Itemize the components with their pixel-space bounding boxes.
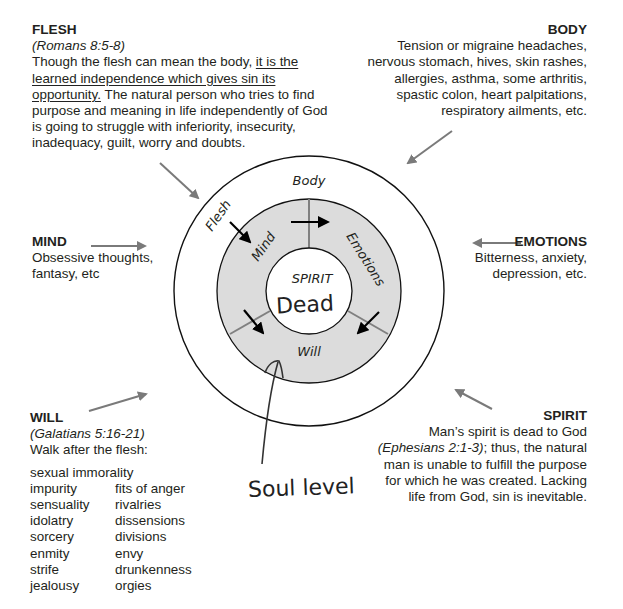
body-line: Tension or migraine headaches, [297,38,587,54]
mind-description: MIND Obsessive thoughts, fantasy, etc [32,234,182,283]
flesh-title: FLESH [32,22,332,38]
spirit-line: for which he was created. Lacking [347,473,587,489]
soul-level-handwritten: Soul level [248,473,356,502]
will-intro: Walk after the flesh: [30,442,230,458]
spirit-line-rest: ; thus, the natural [484,440,587,455]
emotions-description: EMOTIONS Bitterness, anxiety, depression… [437,234,587,283]
spirit-description: SPIRIT Man’s spirit is dead to God (Ephe… [347,408,587,505]
list-item: enmity [30,546,115,562]
list-item: sexual immorality [30,465,230,481]
spirit-line: (Ephesians 2:1-3); thus, the natural [347,440,587,456]
works-of-flesh-list: sexual immorality impurity fits of anger… [30,465,230,595]
emotions-title: EMOTIONS [437,234,587,250]
pointer-arrow-spirit [456,390,492,409]
body-line: respiratory ailments, etc. [297,103,587,119]
spirit-line: life from God, sin is inevitable. [347,489,587,505]
emotions-line: depression, etc. [437,266,587,282]
mind-title: MIND [32,234,182,250]
list-item: idolatry [30,513,115,529]
list-item: drunkenness [115,562,230,578]
spirit-title: SPIRIT [347,408,587,424]
body-line: allergies, asthma, some arthritis, [297,71,587,87]
mind-line: Obsessive thoughts, [32,250,182,266]
body-line: nervous stomach, hives, skin rashes, [297,54,587,70]
dead-handwritten: Dead [275,291,334,319]
flesh-text-before: Though the flesh can mean the body, [32,54,256,69]
pointer-arrow-flesh [160,163,198,198]
list-item: impurity [30,481,115,497]
body-title: BODY [297,22,587,38]
spirit-line: man is unable to fulfill the purpose [347,457,587,473]
spirit-reference: (Ephesians 2:1-3) [378,440,484,455]
emotions-line: Bitterness, anxiety, [437,250,587,266]
will-title: WILL [30,410,230,426]
flesh-body: Though the flesh can mean the body, it i… [32,54,332,151]
list-item: sensuality [30,497,115,513]
list-item: envy [115,546,230,562]
list-item: divisions [115,529,230,545]
list-item: rivalries [115,497,230,513]
list-item: orgies [115,578,230,594]
spirit-line: Man’s spirit is dead to God [347,424,587,440]
list-item: dissensions [115,513,230,529]
body-ring-label: Body [293,173,326,188]
list-item: jealousy [30,578,115,594]
will-label: Will [297,344,321,359]
will-reference: (Galatians 5:16-21) [30,426,230,442]
pointer-arrow-will [89,394,146,411]
mind-line: fantasy, etc [32,266,182,282]
list-item: strife [30,562,115,578]
flesh-reference: (Romans 8:5-8) [32,38,332,54]
pointer-arrow-body [408,131,452,163]
body-description: BODY Tension or migraine headaches, nerv… [297,22,587,119]
list-item: fits of anger [115,481,230,497]
flesh-description: FLESH (Romans 8:5-8) Though the flesh ca… [32,22,332,152]
will-description: WILL (Galatians 5:16-21) Walk after the … [30,410,230,594]
body-line: spastic colon, heart palpitations, [297,87,587,103]
list-item: sorcery [30,529,115,545]
spirit-center-label: SPIRIT [292,271,334,286]
